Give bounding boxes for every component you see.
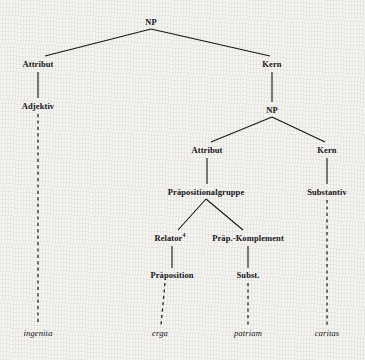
- tree-edges-layer: [0, 0, 365, 360]
- tree-node-label: Substantiv: [307, 187, 347, 197]
- tree-node-label: Adjektiv: [22, 101, 54, 111]
- tree-node-lex-ingenita: ingenita: [23, 329, 52, 338]
- tree-node-lex-patriam: patriam: [234, 329, 262, 338]
- tree-node-attribut-1: Attribut: [22, 60, 53, 69]
- tree-node-label: Attribut: [22, 59, 53, 69]
- syntax-tree-diagram: NPAttributKernAdjektivNPAttributKernPräp…: [0, 0, 365, 360]
- tree-node-label: Kern: [317, 145, 336, 155]
- paper-grain-overlay: [0, 0, 365, 360]
- tree-node-label: Präposition: [150, 270, 193, 280]
- tree-node-label: Subst.: [236, 270, 259, 280]
- tree-node-label: ingenita: [23, 328, 52, 338]
- tree-node-label: patriam: [234, 328, 262, 338]
- tree-node-np-root: NP: [145, 18, 157, 27]
- tree-node-np-inner: NP: [266, 106, 278, 115]
- tree-node-subst: Subst.: [236, 271, 259, 280]
- tree-edge-praepositionalgruppe-to-relator: [178, 199, 206, 230]
- tree-node-praeposition: Präposition: [150, 271, 193, 280]
- tree-node-lex-caritas: caritas: [315, 329, 340, 338]
- tree-edge-np-inner-to-kern-2: [272, 117, 325, 142]
- tree-node-label: caritas: [315, 328, 340, 338]
- tree-node-kern-2: Kern: [317, 146, 336, 155]
- tree-edge-np-root-to-kern-1: [151, 29, 270, 56]
- tree-node-praep-komplement: Präp.-Komplement: [212, 234, 284, 243]
- tree-node-label: erga: [152, 328, 168, 338]
- tree-edge-praepositionalgruppe-to-praep-komplement: [206, 199, 243, 230]
- tree-node-relator: Relator4: [154, 234, 185, 243]
- tree-edge-np-root-to-attribut-1: [45, 29, 151, 56]
- tree-node-footnote-marker: 4: [182, 232, 185, 238]
- tree-node-lex-erga: erga: [152, 329, 168, 338]
- tree-node-label: NP: [145, 17, 157, 27]
- tree-node-label: Präpositionalgruppe: [168, 187, 245, 197]
- tree-node-praepositionalgruppe: Präpositionalgruppe: [168, 188, 245, 197]
- tree-node-adjektiv: Adjektiv: [22, 102, 54, 111]
- tree-node-kern-1: Kern: [262, 60, 281, 69]
- tree-node-substantiv: Substantiv: [307, 188, 347, 197]
- tree-node-label: Attribut: [191, 145, 222, 155]
- tree-edge-np-inner-to-attribut-2: [211, 117, 272, 142]
- tree-node-label: Relator: [154, 233, 182, 243]
- tree-node-attribut-2: Attribut: [191, 146, 222, 155]
- tree-node-label: Präp.-Komplement: [212, 233, 284, 243]
- tree-edge-praeposition-to-lex-erga: [161, 283, 165, 325]
- tree-node-label: NP: [266, 105, 278, 115]
- tree-node-label: Kern: [262, 59, 281, 69]
